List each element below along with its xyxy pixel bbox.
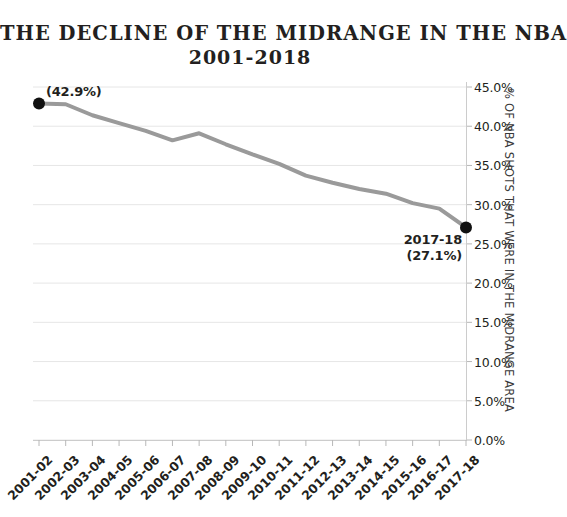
- data-point-marker-start: [33, 97, 45, 109]
- y-axis-title: % OF NBA SHOTS THAT WERE IN THE MIDRANGE…: [498, 88, 516, 428]
- end-point-season: 2017-18: [404, 232, 462, 248]
- end-point-annotation: 2017-18 (27.1%): [404, 232, 462, 265]
- gridlines: [33, 87, 466, 440]
- y-axis-tick-label: 0.0%: [474, 433, 505, 448]
- end-point-value: (27.1%): [404, 248, 462, 264]
- start-point-annotation: (42.9%): [46, 84, 102, 99]
